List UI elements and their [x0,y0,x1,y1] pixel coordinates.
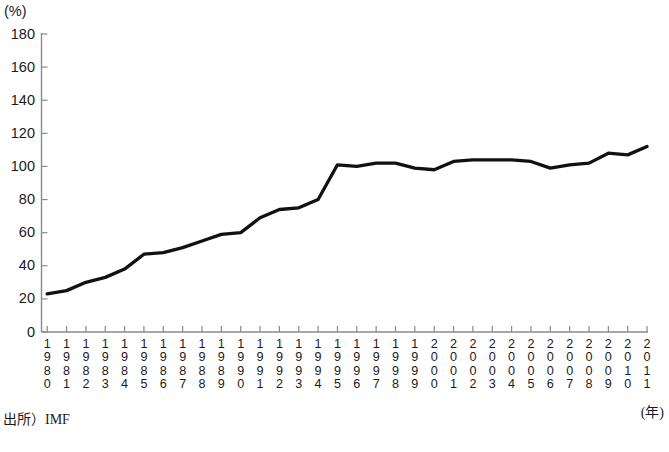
x-label-digit: 9 [350,351,364,364]
x-axis-tick-label: 1991 [253,338,267,392]
x-axis-tick-label: 1994 [311,338,325,392]
x-label-digit: 2 [563,338,577,351]
x-label-digit: 0 [640,351,654,364]
x-label-digit: 0 [466,365,480,378]
x-label-digit: 8 [389,378,403,391]
x-axis-tick-label: 2006 [543,338,557,392]
x-label-digit: 2 [466,338,480,351]
x-label-digit: 2 [543,338,557,351]
x-label-digit: 9 [98,351,112,364]
x-label-digit: 0 [621,378,635,391]
x-label-digit: 9 [176,351,190,364]
x-label-digit: 9 [156,351,170,364]
x-axis-tick-label: 2001 [447,338,461,392]
x-axis-tick-label: 1986 [156,338,170,392]
x-label-digit: 2 [466,378,480,391]
x-label-digit: 8 [176,365,190,378]
x-label-digit: 1 [272,338,286,351]
x-axis-tick-label: 2000 [427,338,441,392]
x-label-digit: 3 [485,378,499,391]
x-label-digit: 1 [118,338,132,351]
x-label-digit: 0 [485,365,499,378]
x-label-digit: 7 [563,378,577,391]
x-label-digit: 9 [272,365,286,378]
data-line [47,147,647,294]
x-label-digit: 1 [214,338,228,351]
x-label-digit: 5 [524,378,538,391]
chart-axes [42,33,649,332]
source-note: 出所）IMF [3,411,70,428]
x-label-digit: 0 [505,351,519,364]
x-axis-tick-label: 1999 [408,338,422,392]
x-label-digit: 0 [524,365,538,378]
x-label-digit: 8 [40,365,54,378]
x-label-digit: 7 [369,378,383,391]
x-label-digit: 8 [156,365,170,378]
x-axis-tick-label: 2009 [601,338,615,392]
x-axis-tick-label: 2002 [466,338,480,392]
x-label-digit: 9 [389,351,403,364]
x-label-digit: 7 [176,378,190,391]
x-axis-tick-label: 1985 [137,338,151,392]
x-label-digit: 2 [505,338,519,351]
x-axis-tick-label: 1988 [195,338,209,392]
x-label-digit: 0 [447,365,461,378]
x-label-digit: 9 [408,351,422,364]
x-label-digit: 9 [234,365,248,378]
x-label-digit: 2 [582,338,596,351]
x-label-digit: 9 [40,351,54,364]
x-axis-tick-label: 1990 [234,338,248,392]
x-label-digit: 0 [505,365,519,378]
x-label-digit: 0 [543,351,557,364]
x-label-digit: 6 [156,378,170,391]
x-axis-tick-label: 1993 [292,338,306,392]
x-label-digit: 1 [292,338,306,351]
x-axis-tick-label: 2010 [621,338,635,392]
x-label-digit: 1 [621,365,635,378]
x-label-digit: 9 [214,378,228,391]
x-label-digit: 0 [466,351,480,364]
x-axis-tick-label: 1984 [118,338,132,392]
x-label-digit: 0 [582,365,596,378]
x-label-digit: 9 [311,365,325,378]
x-label-digit: 4 [118,378,132,391]
x-label-digit: 5 [330,378,344,391]
x-label-digit: 3 [292,378,306,391]
x-label-digit: 2 [447,338,461,351]
x-label-digit: 1 [253,338,267,351]
x-label-digit: 8 [582,378,596,391]
x-label-digit: 8 [214,365,228,378]
x-label-digit: 8 [195,378,209,391]
x-label-digit: 2 [601,338,615,351]
x-axis-tick-label: 1997 [369,338,383,392]
x-label-digit: 0 [563,351,577,364]
x-label-digit: 1 [40,338,54,351]
x-label-digit: 9 [330,365,344,378]
x-label-digit: 9 [195,351,209,364]
x-label-digit: 1 [98,338,112,351]
x-label-digit: 9 [272,351,286,364]
x-label-digit: 8 [137,365,151,378]
x-label-digit: 8 [79,365,93,378]
x-label-digit: 9 [408,365,422,378]
x-label-digit: 9 [118,351,132,364]
x-label-digit: 0 [427,365,441,378]
x-axis-tick-label: 1996 [350,338,364,392]
x-label-digit: 8 [195,365,209,378]
x-label-digit: 9 [214,351,228,364]
x-label-digit: 1 [408,338,422,351]
x-label-digit: 0 [234,378,248,391]
data-series-group [47,147,647,294]
x-label-digit: 1 [156,338,170,351]
x-label-digit: 6 [543,378,557,391]
x-label-digit: 2 [640,338,654,351]
x-axis-tick-label: 1981 [60,338,74,392]
x-label-digit: 9 [253,365,267,378]
x-label-digit: 9 [60,351,74,364]
x-label-digit: 0 [543,365,557,378]
x-label-digit: 9 [79,351,93,364]
x-label-digit: 9 [350,365,364,378]
x-label-digit: 9 [389,365,403,378]
x-label-digit: 9 [311,351,325,364]
x-label-digit: 2 [272,378,286,391]
